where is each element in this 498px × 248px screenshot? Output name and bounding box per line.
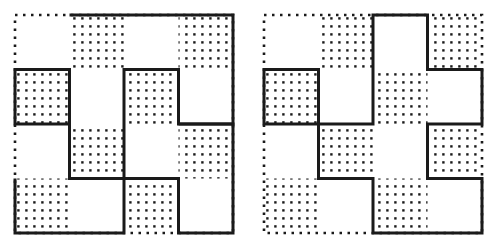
shaded-cell (124, 70, 179, 125)
shaded-cell (179, 15, 234, 70)
shaded-cell (373, 70, 428, 125)
shaded-cell (15, 70, 70, 125)
right-figure-container (249, 0, 498, 248)
shaded-cell (124, 179, 179, 234)
shaded-cell (70, 124, 125, 179)
right-checkerboard-figure (249, 0, 498, 248)
left-figure-container (0, 0, 249, 248)
shaded-cell (15, 179, 70, 234)
left-checkerboard-figure (0, 0, 249, 248)
figure-panel (0, 0, 498, 248)
shaded-cell (428, 15, 483, 70)
shaded-cell (179, 124, 234, 179)
shaded-cell (70, 15, 125, 70)
shaded-cell (264, 179, 319, 234)
shaded-cell (319, 15, 374, 70)
shaded-cell (319, 124, 374, 179)
shaded-cell (264, 70, 319, 125)
shaded-cell (373, 179, 428, 234)
shaded-cell (428, 124, 483, 179)
